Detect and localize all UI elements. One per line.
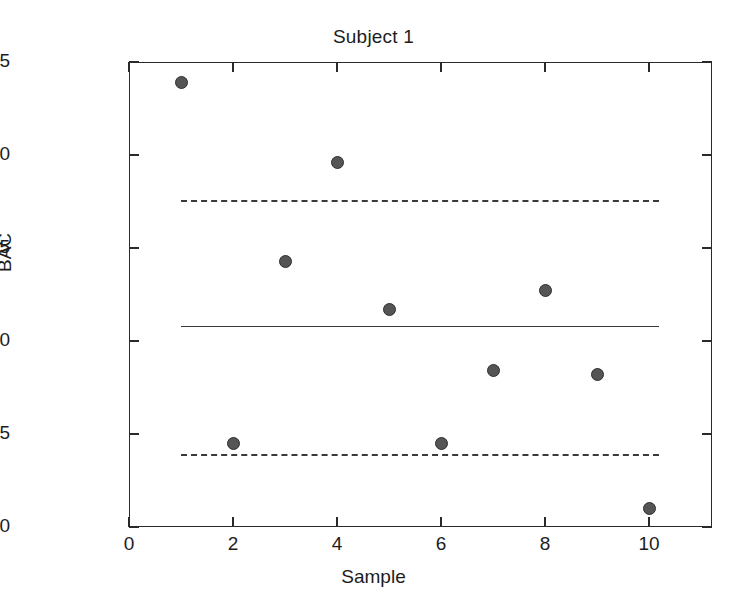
data-point-marker: [227, 437, 240, 450]
y-tick-label: 0.125: [0, 50, 10, 72]
x-tick-label: 8: [515, 533, 575, 555]
y-tick-right: [702, 526, 712, 528]
plot-area: [129, 62, 712, 527]
chart-figure: Subject 1 BAC 0.1000.1050.1100.1150.1200…: [0, 0, 747, 606]
x-tick-label: 2: [203, 533, 263, 555]
data-point-marker: [539, 284, 552, 297]
data-point-marker: [435, 437, 448, 450]
x-tick-bottom: [648, 517, 650, 527]
x-tick-bottom: [440, 517, 442, 527]
data-point-marker: [591, 368, 604, 381]
x-tick-bottom: [128, 517, 130, 527]
x-tick-top: [336, 62, 338, 72]
y-tick-left: [129, 433, 139, 435]
y-tick-label: 0.110: [0, 329, 10, 351]
y-tick-label: 0.105: [0, 422, 10, 444]
center-line-line: [181, 326, 659, 327]
y-tick-left: [129, 526, 139, 528]
data-point-marker: [383, 303, 396, 316]
x-tick-bottom: [336, 517, 338, 527]
x-tick-top: [648, 62, 650, 72]
x-tick-label: 0: [99, 533, 159, 555]
chart-title: Subject 1: [0, 26, 747, 48]
upper-control-limit-line: [181, 200, 659, 202]
y-tick-label: 0.115: [0, 236, 10, 258]
y-tick-left: [129, 247, 139, 249]
y-tick-right: [702, 433, 712, 435]
y-tick-right: [702, 61, 712, 63]
x-tick-top: [232, 62, 234, 72]
data-point-marker: [279, 255, 292, 268]
x-tick-top: [440, 62, 442, 72]
data-point-marker: [487, 364, 500, 377]
x-axis-title: Sample: [0, 566, 747, 588]
y-tick-right: [702, 247, 712, 249]
y-tick-label: 0.100: [0, 515, 10, 537]
y-tick-left: [129, 340, 139, 342]
x-tick-bottom: [232, 517, 234, 527]
data-point-marker: [643, 502, 656, 515]
y-tick-left: [129, 61, 139, 63]
data-point-marker: [175, 76, 188, 89]
y-tick-right: [702, 340, 712, 342]
data-point-marker: [331, 156, 344, 169]
lower-control-limit-line: [181, 454, 659, 456]
x-tick-top: [128, 62, 130, 72]
x-tick-top: [544, 62, 546, 72]
x-tick-bottom: [544, 517, 546, 527]
y-tick-right: [702, 154, 712, 156]
y-tick-left: [129, 154, 139, 156]
x-tick-label: 4: [307, 533, 367, 555]
y-tick-label: 0.120: [0, 143, 10, 165]
x-tick-label: 10: [619, 533, 679, 555]
x-tick-label: 6: [411, 533, 471, 555]
